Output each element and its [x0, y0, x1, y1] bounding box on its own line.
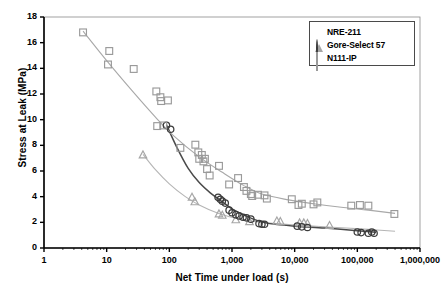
x-tick-label: 1,000 — [202, 255, 262, 265]
triangle-marker-icon — [315, 27, 324, 36]
square-marker-icon — [315, 53, 324, 62]
y-tick-label: 4 — [13, 191, 37, 201]
chart-legend: NRE-211 Gore-Select 57 N111-IP — [309, 21, 415, 66]
legend-label-n111-ip: N111-IP — [327, 53, 357, 63]
y-tick-label: 2 — [13, 216, 37, 226]
y-tick-label: 18 — [13, 11, 37, 21]
y-tick-label: 8 — [13, 139, 37, 149]
circle-marker-icon — [315, 40, 324, 49]
y-tick-label: 12 — [13, 88, 37, 98]
y-tick-label: 0 — [13, 242, 37, 252]
x-tick-label: 100 — [139, 255, 199, 265]
legend-label-gore-select-57: Gore-Select 57 — [327, 40, 385, 50]
x-tick-label: 100,000 — [327, 255, 387, 265]
chart-container: Stress at Leak (MPa) Net Time under load… — [0, 0, 441, 293]
y-tick-label: 6 — [13, 165, 37, 175]
y-tick-label: 14 — [13, 62, 37, 72]
legend-item-nre-211: NRE-211 — [315, 25, 414, 38]
legend-item-gore-select-57: Gore-Select 57 — [315, 38, 414, 51]
x-tick-label: 10 — [77, 255, 137, 265]
x-tick-label: 1,000,000 — [390, 255, 441, 265]
y-tick-label: 16 — [13, 37, 37, 47]
y-tick-label: 10 — [13, 114, 37, 124]
x-tick-label: 10,000 — [265, 255, 325, 265]
x-tick-label: 1 — [14, 255, 74, 265]
legend-label-nre-211: NRE-211 — [327, 27, 361, 37]
x-axis-title: Net Time under load (s) — [44, 272, 420, 283]
legend-item-n111-ip: N111-IP — [315, 51, 414, 64]
